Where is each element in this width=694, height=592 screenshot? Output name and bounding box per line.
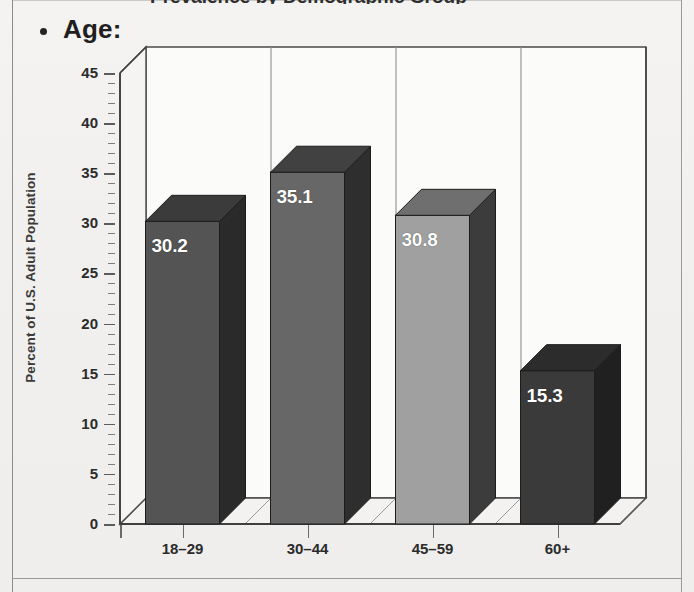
x-axis-category-label: 60+: [498, 540, 618, 557]
bar-side-face: [345, 146, 371, 524]
x-axis-origin-tick: [120, 525, 122, 538]
x-tick-mark: [183, 525, 185, 538]
bar-side-face: [220, 195, 246, 524]
x-tick-mark: [558, 525, 560, 538]
x-axis-category-label: 30–44: [248, 540, 368, 557]
bar-value-label: 15.3: [527, 385, 563, 407]
bar-value-label: 35.1: [277, 186, 313, 208]
bar-front-face: [146, 221, 220, 524]
x-tick-mark: [433, 525, 435, 538]
chart-left-wall: [120, 47, 146, 524]
bar-chart: Percent of U.S. Adult Population 0510152…: [0, 0, 694, 592]
x-axis-category-label: 18–29: [123, 540, 243, 557]
x-tick-mark: [308, 525, 310, 538]
bar-side-face: [470, 189, 496, 524]
plot-area: [0, 0, 694, 592]
bar-value-label: 30.8: [402, 229, 438, 251]
bar-front-face: [396, 215, 470, 524]
x-axis-category-label: 45–59: [373, 540, 493, 557]
bar-value-label: 30.2: [152, 235, 188, 257]
bar-front-face: [271, 172, 345, 524]
bar-side-face: [595, 345, 621, 524]
